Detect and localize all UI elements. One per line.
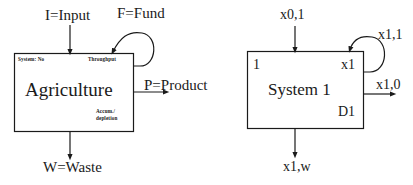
agriculture-accumulation-label: Accum./ depletion [96, 108, 117, 122]
x1w-flow-label: x1,w [283, 160, 311, 174]
system1-depletion-label: D1 [338, 105, 355, 119]
system1-box-title: System 1 [268, 81, 331, 98]
accumulation-line-1: Accum./ [96, 108, 117, 115]
accumulation-line-2: depletion [96, 115, 117, 122]
system1-number-label: 1 [253, 58, 260, 72]
agriculture-box-title: Agriculture [25, 80, 113, 99]
agriculture-throughput-label: Throughput [88, 57, 116, 62]
system1-throughput-label: x1 [341, 58, 355, 72]
waste-flow-label: W=Waste [43, 160, 102, 175]
agriculture-system-number-label: System: No [18, 57, 44, 62]
x10-flow-label: x1,0 [376, 78, 401, 92]
fund-flow-label: F=Fund [117, 6, 165, 21]
x01-flow-label: x0,1 [280, 8, 305, 22]
input-flow-label: I=Input [45, 8, 90, 23]
product-flow-label: P=Product [144, 78, 207, 93]
x11-flow-label: x1,1 [378, 28, 403, 42]
